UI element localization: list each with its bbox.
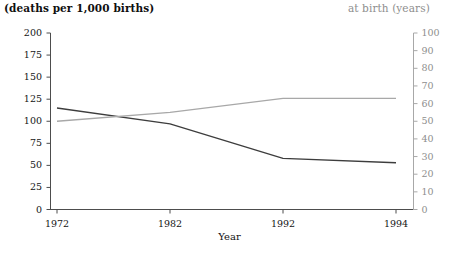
data-line-right-axis — [57, 98, 396, 121]
left-tick-label: 50 — [0, 159, 42, 170]
right-tick-label: 0 — [422, 204, 459, 215]
left-tick-label: 0 — [0, 204, 42, 215]
x-axis-label: Year — [0, 231, 459, 242]
left-tick-label: 125 — [0, 93, 42, 104]
right-tick-label: 10 — [422, 186, 459, 197]
left-tick-label: 150 — [0, 71, 42, 82]
left-tick-label: 25 — [0, 181, 42, 192]
right-tick-label: 70 — [422, 80, 459, 91]
right-tick-label: 30 — [422, 151, 459, 162]
right-tick-label: 100 — [422, 27, 459, 38]
right-tick-label: 90 — [422, 45, 459, 56]
right-tick-label: 40 — [422, 133, 459, 144]
right-tick-label: 60 — [422, 98, 459, 109]
axis-spines — [51, 33, 414, 210]
x-axis-ticks — [57, 210, 396, 214]
x-tick-label: 1994 — [371, 218, 421, 229]
chart-container: (deaths per 1,000 births) at birth (year… — [0, 0, 459, 254]
left-tick-label: 75 — [0, 137, 42, 148]
left-tick-label: 175 — [0, 49, 42, 60]
x-tick-label: 1972 — [32, 218, 82, 229]
right-axis-ticks — [414, 33, 418, 210]
plot-area — [0, 0, 459, 254]
right-tick-label: 80 — [422, 62, 459, 73]
x-tick-label: 1982 — [145, 218, 195, 229]
left-tick-label: 100 — [0, 115, 42, 126]
left-tick-label: 200 — [0, 27, 42, 38]
data-series-group — [57, 98, 396, 162]
data-line-left-axis — [57, 108, 396, 163]
right-tick-label: 50 — [422, 115, 459, 126]
x-tick-label: 1992 — [258, 218, 308, 229]
right-tick-label: 20 — [422, 168, 459, 179]
left-axis-ticks — [47, 33, 51, 210]
